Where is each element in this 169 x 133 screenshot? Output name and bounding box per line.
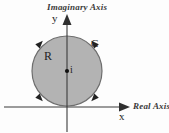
diagram-canvas <box>0 0 169 133</box>
imaginary-axis-title: Imaginary Axis <box>47 3 107 12</box>
complex-plane-diagram: Imaginary Axis Real Axis y x R C i <box>0 0 169 133</box>
up-arrow-icon <box>63 14 72 25</box>
point-label: i <box>70 65 73 75</box>
dot-marker-icon <box>65 69 69 73</box>
real-axis-title: Real Axis <box>133 102 169 111</box>
y-axis-variable-label: y <box>52 13 58 24</box>
contour-label: C <box>91 38 98 49</box>
region-label: R <box>44 50 52 62</box>
x-axis-variable-label: x <box>119 111 125 122</box>
